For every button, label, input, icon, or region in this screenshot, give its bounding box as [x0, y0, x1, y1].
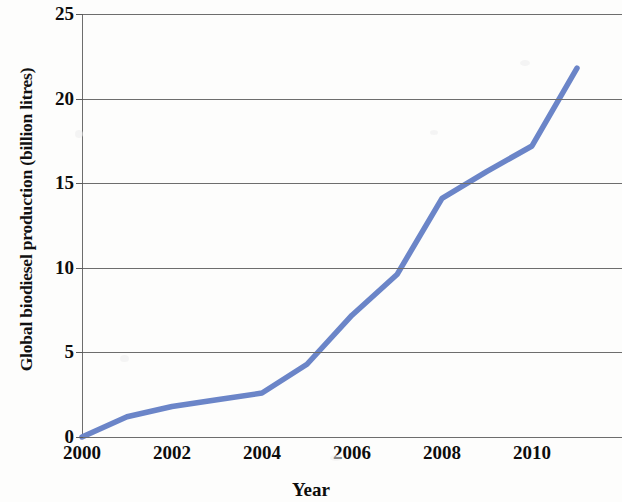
gridline-y-5	[82, 352, 622, 353]
scan-artifact	[520, 60, 530, 66]
y-tick-mark	[76, 183, 83, 184]
line-chart-figure: Global biodiesel production (billion lit…	[0, 0, 622, 502]
y-tick-mark	[76, 99, 83, 100]
scan-artifact	[430, 130, 438, 135]
series-line-biodiesel	[82, 14, 622, 437]
y-tick-label-25: 25	[28, 4, 74, 23]
y-tick-label-15: 15	[28, 173, 74, 192]
gridline-y-0	[82, 437, 622, 438]
x-tick-label-2002: 2002	[132, 443, 212, 462]
scan-artifact	[330, 455, 342, 461]
x-tick-label-2004: 2004	[222, 443, 302, 462]
y-tick-mark	[76, 14, 83, 15]
y-tick-mark	[76, 352, 83, 353]
gridline-y-25	[82, 14, 622, 15]
y-tick-mark	[76, 268, 83, 269]
y-tick-label-20: 20	[28, 89, 74, 108]
gridline-y-10	[82, 268, 622, 269]
x-axis-title: Year	[0, 479, 622, 501]
x-tick-label-2010: 2010	[492, 443, 572, 462]
gridline-y-15	[82, 183, 622, 184]
y-tick-label-5: 5	[28, 342, 74, 361]
scan-artifact	[75, 130, 83, 138]
x-tick-label-2006: 2006	[312, 443, 392, 462]
x-tick-label-2008: 2008	[402, 443, 482, 462]
gridline-y-20	[82, 99, 622, 100]
scan-artifact	[120, 355, 129, 362]
x-tick-label-2000: 2000	[42, 443, 122, 462]
y-tick-mark	[76, 437, 83, 438]
x-axis-tick-labels: 200020022004200620082010	[0, 443, 622, 473]
plot-area	[82, 14, 622, 437]
y-tick-label-10: 10	[28, 258, 74, 277]
y-axis-tick-labels: 0510152025	[22, 0, 74, 502]
